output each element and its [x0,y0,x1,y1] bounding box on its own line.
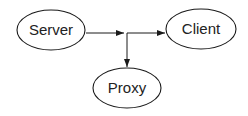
diagram-canvas: Server Client Proxy [0,0,248,116]
node-server-label: Server [29,21,73,38]
node-client-label: Client [182,20,221,37]
node-client: Client [166,9,236,49]
node-proxy-label: Proxy [108,79,147,96]
node-server: Server [17,10,85,50]
node-proxy: Proxy [93,68,161,108]
